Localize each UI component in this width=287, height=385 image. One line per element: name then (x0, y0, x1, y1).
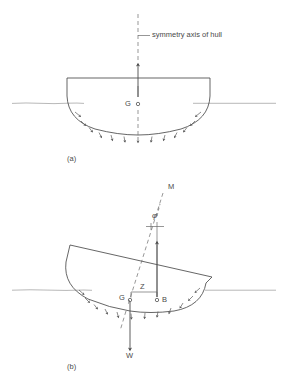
heel-angle-label: φ (152, 212, 157, 220)
center-of-buoyancy-marker-b (155, 298, 158, 301)
symmetry-axis-label: symmetry axis of hull (152, 31, 222, 39)
panel-a (12, 14, 276, 143)
heel-angle-marks (146, 223, 164, 230)
metacenter-label: M (168, 183, 174, 191)
center-of-gravity-label-a: G (125, 100, 131, 108)
center-of-buoyancy-label: B (162, 296, 167, 304)
center-of-gravity-marker-b (128, 298, 131, 301)
panel-caption-b: (b) (67, 363, 76, 371)
weight-label: W (126, 352, 133, 360)
righting-arm-gz (131, 292, 157, 298)
panel-caption-a: (a) (67, 155, 76, 163)
pressure-arrows-b (79, 288, 200, 319)
center-of-gravity-label-b: G (119, 294, 125, 302)
center-of-gravity-marker-a (136, 102, 139, 105)
figure-canvas (0, 0, 287, 385)
righting-arm-label: Z (140, 283, 145, 291)
panel-b (12, 193, 276, 350)
hull-outline-a (67, 78, 210, 135)
waterline-a (12, 103, 276, 104)
stability-figure: symmetry axis of hull G (a) M φ G Z B W … (0, 0, 287, 385)
hull-outline-b (66, 245, 212, 313)
